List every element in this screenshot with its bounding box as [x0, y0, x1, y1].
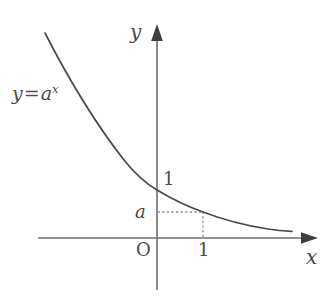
equation-exponent: x: [52, 82, 59, 96]
y-axis-tick-a-label: a: [135, 203, 146, 221]
equation-base: a: [41, 82, 52, 104]
graph-canvas: [0, 0, 336, 301]
x-axis-tick-one-label: 1: [198, 241, 209, 259]
equation-y: y: [12, 82, 23, 104]
x-axis-label: x: [306, 247, 317, 267]
exponential-curve: [45, 33, 292, 231]
x-axis-arrowhead: [301, 232, 318, 244]
y-axis-tick-one-label: 1: [163, 170, 174, 188]
exponential-decay-graph: y=ax y x O 1 a 1: [0, 0, 336, 301]
y-axis-label: y: [130, 22, 141, 42]
curve-equation-label: y=ax: [12, 84, 59, 103]
origin-label: O: [136, 241, 151, 259]
equation-equals: =: [24, 82, 40, 104]
y-axis-arrowhead: [151, 24, 163, 41]
